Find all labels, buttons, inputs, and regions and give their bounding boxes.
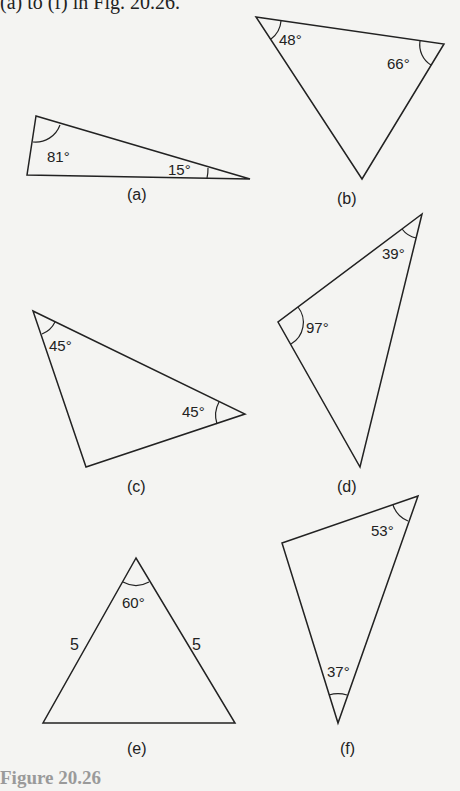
triangles-figure: 81° 15° (a) 48° 66° (b) 45° 45° (c) 39° … (0, 0, 460, 791)
angle-label-81: 81° (47, 148, 70, 165)
angle-arc-97 (291, 307, 303, 344)
sublabel-b: (b) (337, 190, 357, 207)
triangle-c: 45° 45° (33, 311, 245, 467)
angle-arc-81 (33, 125, 60, 142)
triangle-a: 81° 15° (a) (27, 116, 250, 203)
sublabel-f: (f) (340, 740, 355, 757)
sublabel-a: (a) (127, 186, 147, 203)
angle-arc-37 (329, 694, 347, 695)
triangle-d: 39° 97° (278, 214, 422, 467)
side-label-right: 5 (192, 636, 201, 653)
angle-label-39: 39° (382, 245, 405, 262)
triangle-c-shape (33, 311, 245, 467)
sublabel-e: (e) (127, 740, 147, 757)
angle-label-97: 97° (306, 319, 329, 336)
angle-arc-45-right (216, 402, 219, 424)
angle-label-37: 37° (327, 663, 350, 680)
triangle-f-shape (282, 496, 418, 723)
triangle-b: 48° 66° (b) (256, 17, 444, 207)
angle-arc-66 (420, 41, 431, 65)
angle-label-66: 66° (387, 55, 410, 72)
angle-label-45-right: 45° (182, 403, 205, 420)
triangle-f: 53° 37° (282, 496, 418, 723)
angle-label-48: 48° (279, 31, 302, 48)
angle-arc-60 (123, 582, 149, 585)
figure-caption: Figure 20.26 (0, 767, 101, 789)
angle-arc-45-top (42, 322, 55, 334)
angle-arc-39 (402, 229, 416, 238)
angle-label-45-top: 45° (49, 337, 72, 354)
sublabel-d: (d) (337, 478, 357, 495)
angle-label-60: 60° (122, 594, 145, 611)
angle-label-53: 53° (371, 522, 394, 539)
angle-arc-15 (207, 168, 208, 178)
triangle-e: 60° 5 5 (43, 558, 235, 723)
side-label-left: 5 (70, 636, 79, 653)
sublabel-c: (c) (127, 478, 146, 495)
angle-arc-53 (393, 505, 408, 521)
angle-label-15: 15° (168, 161, 191, 178)
